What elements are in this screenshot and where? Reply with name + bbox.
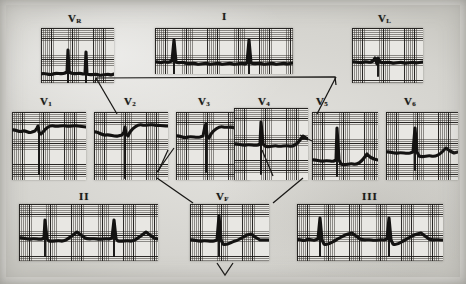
lead-label-subscript: R: [76, 17, 81, 25]
ecg-panel-ii: [19, 204, 158, 261]
ecg-trace-v2: [94, 112, 168, 180]
lead-label-v4: V4: [258, 95, 270, 108]
baseline-trace: [352, 58, 423, 64]
ecg-trace-avr: [41, 28, 114, 83]
ecg-panel-avr: [41, 28, 114, 83]
lead-label-v3: V3: [198, 95, 210, 108]
lead-label-i: I: [222, 10, 227, 22]
ecg-trace-avl: [352, 28, 423, 83]
ecg-panel-iii: [297, 204, 443, 261]
lead-label-subscript: 6: [412, 100, 416, 108]
lead-label-v2: V2: [124, 95, 136, 108]
lead-label-iii: III: [362, 190, 378, 202]
baseline-trace: [312, 128, 378, 165]
lead-label-subscript: 2: [132, 100, 136, 108]
baseline-trace: [94, 125, 168, 136]
lead-label-subscript: F: [224, 195, 229, 203]
ecg-panel-v5: [312, 112, 378, 180]
ecg-trace-avf: [190, 204, 269, 261]
ecg-panel-v6: [386, 112, 458, 180]
lead-label-subscript: 5: [324, 100, 328, 108]
ecg-trace-v4: [234, 108, 308, 180]
lead-label-subscript: L: [386, 17, 391, 25]
qrs-spike: [68, 50, 86, 83]
baseline-trace: [19, 220, 158, 241]
lead-label-avf: VF: [216, 190, 229, 203]
lead-label-avl: VL: [378, 12, 391, 25]
lead-label-ii: II: [79, 190, 90, 202]
baseline-trace: [12, 126, 86, 134]
ecg-panel-v2: [94, 112, 168, 180]
ecg-panel-v4: [234, 108, 308, 180]
baseline-trace: [386, 128, 458, 157]
lead-label-subscript: 4: [266, 100, 270, 108]
qrs-spike: [320, 218, 389, 256]
baseline-trace: [41, 50, 114, 75]
ecg-trace-v1: [12, 112, 86, 180]
lead-label-v5: V5: [316, 95, 328, 108]
lead-label-v1: V1: [40, 95, 52, 108]
ecg-trace-v6: [386, 112, 458, 180]
baseline-trace: [234, 122, 308, 147]
lead-label-subscript: 1: [48, 100, 52, 108]
qrs-spike: [174, 40, 249, 74]
ecg-panel-avf: [190, 204, 269, 261]
ecg-panel-v1: [12, 112, 86, 180]
ecg-panel-avl: [352, 28, 423, 83]
ecg-panel-i: [155, 28, 293, 74]
ecg-trace-v5: [312, 112, 378, 180]
ecg-trace-ii: [19, 204, 158, 261]
baseline-trace: [155, 40, 293, 64]
ecg-trace-iii: [297, 204, 443, 261]
baseline-trace: [297, 218, 443, 245]
ecg-figure: VRIVLV1V2V3V4V5V6IIVFIII: [0, 0, 466, 284]
ecg-trace-i: [155, 28, 293, 74]
baseline-trace: [190, 216, 269, 245]
lead-label-v6: V6: [404, 95, 416, 108]
lead-label-avr: VR: [68, 12, 82, 25]
lead-label-subscript: 3: [206, 100, 210, 108]
